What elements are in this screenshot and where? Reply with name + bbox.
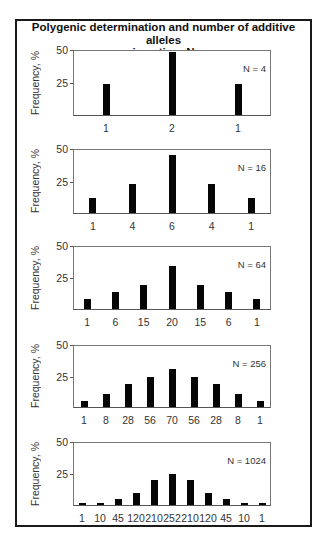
x-tick-labels: 1615201561 xyxy=(73,316,271,328)
x-tick-label: 1 xyxy=(90,220,96,232)
y-axis-label: Frequency, % xyxy=(28,149,42,214)
x-tick-label: 4 xyxy=(129,220,135,232)
x-tick-label: 45 xyxy=(220,512,232,524)
bar xyxy=(133,493,140,505)
x-tick-labels: 18285670562881 xyxy=(73,414,271,426)
bar xyxy=(89,198,96,213)
y-tick-label: 50 xyxy=(48,240,68,252)
bar xyxy=(84,299,91,309)
x-tick-label: 70 xyxy=(166,414,178,426)
y-axis-label: Frequency, % xyxy=(28,345,42,408)
x-tick-label: 28 xyxy=(210,414,222,426)
y-tick-mark xyxy=(70,149,73,150)
bar xyxy=(129,184,136,213)
bar xyxy=(147,377,154,408)
bar xyxy=(97,503,104,505)
x-tick-label: 120 xyxy=(127,512,145,524)
x-tick-label: 210 xyxy=(181,512,199,524)
y-axis-label: Frequency, % xyxy=(28,246,42,310)
y-tick-label: 25 xyxy=(48,77,68,89)
y-tick-label: 25 xyxy=(48,371,68,383)
n-label: N = 256 xyxy=(232,358,266,369)
x-tick-label: 1 xyxy=(235,122,241,134)
bar xyxy=(248,198,255,213)
bar xyxy=(169,52,176,115)
x-tick-label: 10 xyxy=(94,512,106,524)
y-tick-label: 25 xyxy=(48,272,68,284)
n-label: N = 16 xyxy=(238,162,266,173)
bar xyxy=(259,503,266,505)
plot-area-4: N = 256 xyxy=(73,345,271,408)
x-tick-label: 45 xyxy=(112,512,124,524)
y-tick-mark xyxy=(70,83,73,84)
y-tick-mark xyxy=(70,246,73,247)
bar xyxy=(103,84,110,115)
y-tick-label: 50 xyxy=(48,436,68,448)
x-tick-label: 210 xyxy=(145,512,163,524)
x-tick-labels: 1104512021025221012045101 xyxy=(73,512,271,524)
bar xyxy=(151,480,158,505)
n-label: N = 1024 xyxy=(227,455,266,466)
y-tick-mark xyxy=(70,182,73,183)
plot-area-2: N = 16 xyxy=(73,149,271,214)
x-tick-label: 2 xyxy=(169,122,175,134)
x-tick-label: 1 xyxy=(79,512,85,524)
y-axis-label: Frequency, % xyxy=(28,50,42,116)
x-tick-label: 1 xyxy=(248,220,254,232)
x-tick-label: 10 xyxy=(238,512,250,524)
x-tick-label: 1 xyxy=(84,316,90,328)
x-tick-label: 1 xyxy=(103,122,109,134)
y-tick-label: 25 xyxy=(48,176,68,188)
y-tick-mark xyxy=(70,278,73,279)
x-tick-label: 1 xyxy=(254,316,260,328)
y-tick-label: 50 xyxy=(48,339,68,351)
x-tick-label: 20 xyxy=(166,316,178,328)
x-tick-label: 6 xyxy=(113,316,119,328)
x-tick-label: 6 xyxy=(169,220,175,232)
x-tick-label: 28 xyxy=(122,414,134,426)
bar xyxy=(241,503,248,505)
bar xyxy=(79,503,86,505)
bar xyxy=(187,480,194,505)
x-tick-label: 4 xyxy=(209,220,215,232)
bar xyxy=(205,493,212,505)
plot-area-1: N = 4 xyxy=(73,50,271,116)
y-tick-mark xyxy=(70,442,73,443)
x-tick-labels: 14641 xyxy=(73,220,271,232)
bar xyxy=(253,299,260,309)
bar xyxy=(213,384,220,407)
bar xyxy=(125,384,132,407)
x-tick-label: 1 xyxy=(259,512,265,524)
title-line-1: Polygenic determination and number of ad… xyxy=(15,21,312,46)
x-tick-label: 8 xyxy=(235,414,241,426)
y-tick-label: 50 xyxy=(48,44,68,56)
bar xyxy=(169,474,176,505)
y-tick-mark xyxy=(70,474,73,475)
x-tick-label: 56 xyxy=(144,414,156,426)
x-tick-label: 252 xyxy=(163,512,181,524)
bar xyxy=(191,377,198,408)
bar xyxy=(112,292,119,309)
n-label: N = 4 xyxy=(243,63,266,74)
plot-area-5: N = 1024 xyxy=(73,442,271,506)
x-tick-label: 1 xyxy=(257,414,263,426)
bar xyxy=(169,369,176,407)
x-tick-label: 15 xyxy=(138,316,150,328)
bar xyxy=(223,499,230,505)
bar xyxy=(115,499,122,505)
bar xyxy=(197,285,204,309)
plot-area-3: N = 64 xyxy=(73,246,271,310)
bar xyxy=(257,401,264,407)
bar xyxy=(81,401,88,407)
n-label: N = 64 xyxy=(238,259,266,270)
x-tick-labels: 121 xyxy=(73,122,271,134)
y-tick-mark xyxy=(70,345,73,346)
y-axis-label: Frequency, % xyxy=(28,442,42,506)
bar xyxy=(103,394,110,407)
bar xyxy=(169,155,176,213)
bar xyxy=(225,292,232,309)
bar xyxy=(169,266,176,309)
y-tick-mark xyxy=(70,377,73,378)
x-tick-label: 8 xyxy=(103,414,109,426)
x-tick-label: 1 xyxy=(81,414,87,426)
